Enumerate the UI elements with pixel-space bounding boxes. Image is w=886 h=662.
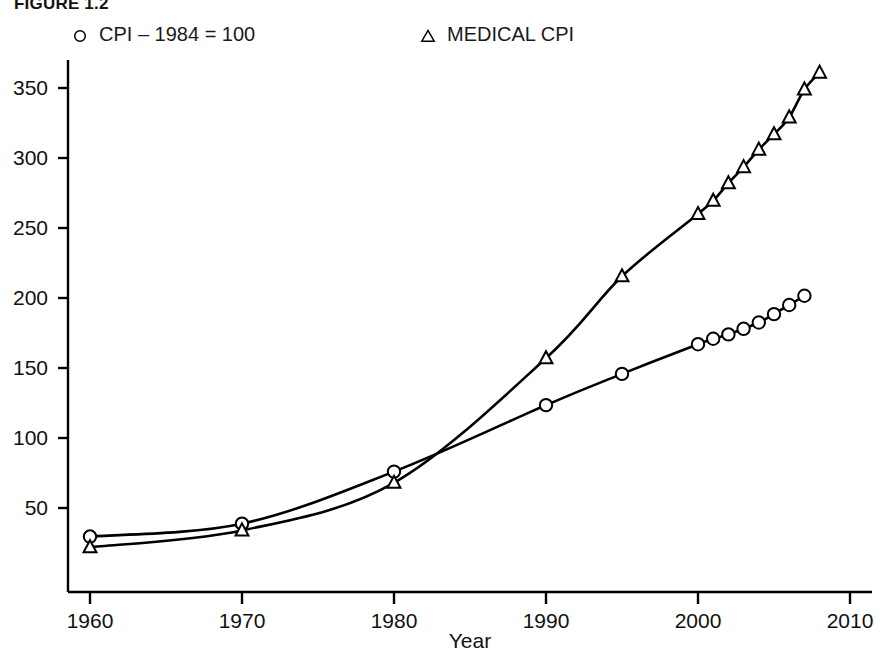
data-point-marker [540, 399, 552, 411]
x-axis-ticks: 196019701980199020002010 [67, 592, 874, 632]
data-point-marker [737, 323, 749, 335]
data-point-marker [692, 338, 704, 350]
figure-container: FIGURE 1.2 CPI – 1984 = 100 MEDICAL CPI … [0, 0, 886, 662]
x-tick-label: 1990 [523, 609, 570, 632]
data-series-layer [84, 66, 826, 553]
y-tick-label: 150 [13, 356, 48, 379]
data-point-marker [798, 290, 810, 302]
data-point-marker [616, 368, 628, 380]
data-point-marker [388, 476, 401, 488]
series-line [90, 296, 804, 537]
x-tick-label: 2000 [675, 609, 722, 632]
x-tick-label: 1960 [67, 609, 114, 632]
line-chart-plot: 50100150200250300350 1960197019801990200… [0, 0, 886, 662]
x-axis-title: Year [449, 629, 491, 652]
x-tick-label: 2010 [827, 609, 874, 632]
y-tick-label: 100 [13, 426, 48, 449]
data-point-marker [753, 316, 765, 328]
y-tick-label: 250 [13, 216, 48, 239]
data-point-marker [707, 333, 719, 345]
series-line [90, 73, 820, 548]
y-tick-label: 200 [13, 286, 48, 309]
y-tick-label: 350 [13, 76, 48, 99]
x-tick-label: 1970 [219, 609, 266, 632]
data-point-marker [783, 299, 795, 311]
y-tick-label: 300 [13, 146, 48, 169]
data-series [84, 290, 811, 543]
data-series [84, 66, 826, 553]
data-point-marker [722, 328, 734, 340]
data-point-marker [768, 308, 780, 320]
y-axis-ticks: 50100150200250300350 [13, 76, 68, 519]
x-tick-label: 1980 [371, 609, 418, 632]
data-point-marker [813, 66, 826, 78]
y-tick-label: 50 [25, 496, 48, 519]
